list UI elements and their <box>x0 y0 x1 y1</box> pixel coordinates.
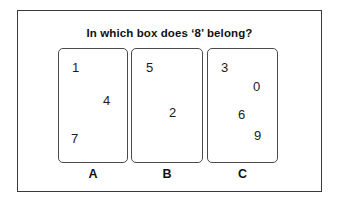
digit-a-2: 7 <box>71 132 78 145</box>
box-a[interactable]: 1 4 7 <box>58 48 128 163</box>
box-b[interactable]: 5 2 <box>131 48 203 163</box>
box-label-b: B <box>131 167 203 181</box>
worksheet-question-card: In which box does ‘8’ belong? 1 4 7 5 2 … <box>0 0 340 208</box>
digit-b-0: 5 <box>146 61 153 74</box>
digit-a-0: 1 <box>72 61 79 74</box>
digit-c-1: 0 <box>253 80 260 93</box>
box-label-c: C <box>207 167 278 181</box>
question-prompt: In which box does ‘8’ belong? <box>17 26 322 40</box>
digit-c-2: 6 <box>238 108 245 121</box>
digit-c-0: 3 <box>221 61 228 74</box>
digit-b-1: 2 <box>169 106 176 119</box>
digit-c-3: 9 <box>254 129 261 142</box>
box-c[interactable]: 3 0 6 9 <box>207 48 278 163</box>
digit-a-1: 4 <box>103 94 110 107</box>
box-label-a: A <box>58 167 128 181</box>
